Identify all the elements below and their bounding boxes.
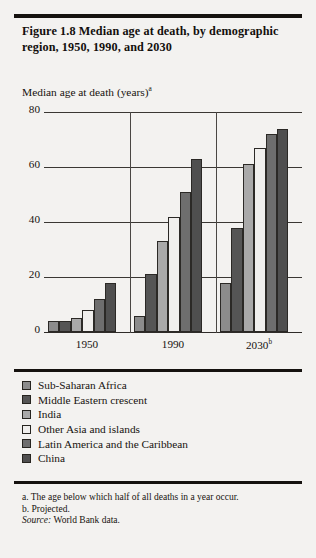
bar-chart-plot-area: 020406080195019902030b — [44, 112, 302, 333]
y-axis-tick-label-60: 60 — [0, 158, 40, 170]
legend-item: Other Asia and islands — [22, 422, 302, 437]
legend-item-label: China — [38, 452, 65, 464]
source-line: Source: World Bank data. — [22, 515, 298, 527]
y-axis-title-footnote-marker: a — [149, 84, 152, 93]
bar — [82, 310, 93, 332]
legend-item-label: Middle Eastern crescent — [38, 394, 147, 406]
note-b: b. Projected. — [22, 504, 298, 516]
legend-swatch-icon — [22, 410, 31, 419]
legend-divider — [14, 369, 302, 372]
bar — [59, 321, 70, 332]
legend-swatch-icon — [22, 395, 31, 404]
x-axis-tick-label-text: 1990 — [162, 338, 184, 350]
bar — [157, 241, 168, 332]
figure-page: Figure 1.8 Median age at death, by demog… — [0, 0, 316, 558]
top-divider — [14, 14, 302, 18]
legend-item: Sub-Saharan Africa — [22, 378, 302, 393]
chart-legend: Sub-Saharan AfricaMiddle Eastern crescen… — [22, 378, 302, 466]
legend-swatch-icon — [22, 439, 31, 448]
legend-item: China — [22, 451, 302, 466]
y-axis-tick-label-40: 40 — [0, 213, 40, 225]
legend-item-label: India — [38, 408, 61, 420]
gridline-80 — [44, 112, 302, 113]
bar — [48, 321, 59, 332]
group-separator-1990 — [130, 112, 131, 333]
bar — [231, 228, 242, 333]
bar — [254, 148, 265, 332]
legend-swatch-icon — [22, 425, 31, 434]
y-axis-tick-label-80: 80 — [0, 103, 40, 115]
y-axis-title-text: Median age at death (years) — [22, 86, 149, 98]
legend-item-label: Other Asia and islands — [38, 423, 140, 435]
bar — [180, 192, 191, 332]
figure-notes: a. The age below which half of all death… — [22, 492, 298, 527]
legend-swatch-icon — [22, 454, 31, 463]
bar — [145, 274, 156, 332]
bar — [277, 129, 288, 333]
source-text: World Bank data. — [53, 515, 120, 525]
bar — [191, 159, 202, 332]
x-axis-tick-label-1990: 1990 — [130, 338, 216, 350]
y-axis-tick-label-20: 20 — [0, 268, 40, 280]
group-separator-2030 — [216, 112, 217, 333]
y-axis-title: Median age at death (years)a — [22, 84, 152, 98]
bar — [94, 299, 105, 332]
x-axis-line — [44, 332, 302, 333]
legend-item: India — [22, 407, 302, 422]
legend-item-label: Sub-Saharan Africa — [38, 379, 127, 391]
bar — [71, 318, 82, 332]
x-axis-tick-label-text: 2030 — [246, 339, 268, 351]
bar — [243, 164, 254, 332]
bar — [134, 316, 145, 333]
x-axis-tick-label-1950: 1950 — [44, 338, 130, 350]
x-axis-tick-footnote-marker: b — [268, 338, 272, 346]
source-label: Source: — [22, 515, 51, 525]
x-axis-tick-label-text: 1950 — [76, 338, 98, 350]
notes-divider — [14, 481, 302, 484]
legend-swatch-icon — [22, 381, 31, 390]
x-axis-tick-label-2030: 2030b — [216, 338, 302, 351]
bar — [266, 134, 277, 332]
y-axis-tick-label-0: 0 — [0, 323, 40, 335]
legend-item: Middle Eastern crescent — [22, 393, 302, 408]
legend-item-label: Latin America and the Caribbean — [38, 438, 188, 450]
figure-title: Figure 1.8 Median age at death, by demog… — [22, 24, 294, 55]
legend-item: Latin America and the Caribbean — [22, 436, 302, 451]
bar — [105, 283, 116, 333]
bar — [168, 217, 179, 333]
bar — [220, 283, 231, 333]
note-a: a. The age below which half of all death… — [22, 492, 298, 504]
